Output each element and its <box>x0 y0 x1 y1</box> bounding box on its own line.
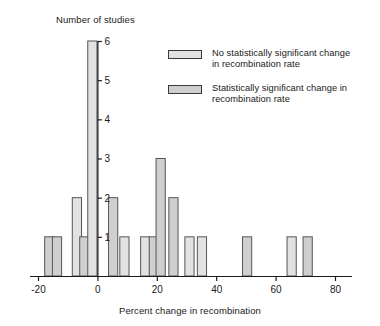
x-tick-label-80: 80 <box>330 284 342 295</box>
bar-10 <box>169 198 178 276</box>
y-tick-label-2: 2 <box>104 193 110 204</box>
legend-item-no-change: No statistically significant change in r… <box>168 48 374 71</box>
y-tick-label-6: 6 <box>104 36 110 47</box>
x-axis-title: Percent change in recombination <box>0 305 380 316</box>
y-tick-label-1: 1 <box>104 232 110 243</box>
chart-figure: Number of studies 123456-20020406080 No … <box>0 0 380 326</box>
legend-item-significant: Statistically significant change in reco… <box>168 83 374 106</box>
x-tick-label-40: 40 <box>211 284 223 295</box>
bar-13 <box>242 237 251 276</box>
legend-swatch-no-change <box>168 50 202 59</box>
x-tick-label--20: -20 <box>31 284 46 295</box>
bar-15 <box>303 237 312 276</box>
bar-7 <box>141 237 150 276</box>
y-tick-label-4: 4 <box>104 114 110 125</box>
y-tick-label-3: 3 <box>104 153 110 164</box>
bar-11 <box>185 237 194 276</box>
x-tick-label-20: 20 <box>152 284 164 295</box>
bar-12 <box>197 237 206 276</box>
bar-6 <box>120 237 129 276</box>
legend-swatch-significant <box>168 85 202 94</box>
y-tick-label-5: 5 <box>104 75 110 86</box>
legend-label-significant: Statistically significant change in reco… <box>212 83 347 106</box>
x-tick-label-60: 60 <box>271 284 283 295</box>
bar-1 <box>52 237 61 276</box>
bar-4 <box>88 41 97 276</box>
chart-legend: No statistically significant change in r… <box>168 48 374 118</box>
bar-14 <box>287 237 296 276</box>
x-tick-label-0: 0 <box>95 284 101 295</box>
legend-label-no-change: No statistically significant change in r… <box>212 48 350 71</box>
bar-9 <box>156 159 165 277</box>
